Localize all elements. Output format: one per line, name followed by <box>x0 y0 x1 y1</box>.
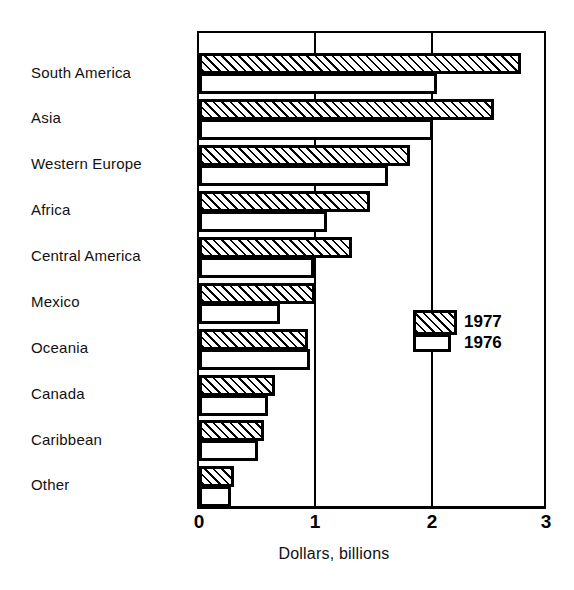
bar-chart: South America Asia Western Europe Africa… <box>0 0 574 590</box>
xtick-0: 0 <box>194 512 205 531</box>
bar-other-1977 <box>199 466 234 487</box>
legend-swatch-1976 <box>413 334 451 352</box>
x-axis-title-text: Dollars, billions <box>279 545 390 562</box>
category-label-asia: Asia <box>31 110 61 125</box>
bar-other-1976 <box>199 486 231 507</box>
category-label-canada: Canada <box>31 386 85 401</box>
legend-label-1977: 1977 <box>464 313 502 330</box>
bar-oceania-1977 <box>199 329 308 350</box>
bar-south-america-1977 <box>199 53 521 74</box>
category-label-other: Other <box>31 477 70 492</box>
x-axis-title: Dollars, billions <box>0 546 574 562</box>
category-label-africa: Africa <box>31 202 71 217</box>
category-label-mexico: Mexico <box>31 294 80 309</box>
legend-swatch-1977 <box>413 310 457 335</box>
bar-mexico-1976 <box>199 303 280 324</box>
bar-africa-1976 <box>199 211 327 232</box>
bar-caribbean-1977 <box>199 420 264 441</box>
bar-africa-1977 <box>199 191 370 212</box>
bar-western-europe-1976 <box>199 165 388 186</box>
bar-western-europe-1977 <box>199 145 410 166</box>
bar-central-america-1976 <box>199 257 314 278</box>
bar-central-america-1977 <box>199 237 352 258</box>
legend-label-1976: 1976 <box>464 334 502 351</box>
category-label-caribbean: Caribbean <box>31 432 102 447</box>
bar-mexico-1977 <box>199 283 315 304</box>
xtick-3: 3 <box>541 512 552 531</box>
category-label-oceania: Oceania <box>31 340 88 355</box>
category-label-south-america: South America <box>31 65 131 80</box>
xtick-1: 1 <box>310 512 321 531</box>
bar-oceania-1976 <box>199 349 310 370</box>
bar-asia-1976 <box>199 119 433 140</box>
bar-canada-1976 <box>199 395 268 416</box>
bar-caribbean-1976 <box>199 440 258 461</box>
bar-asia-1977 <box>199 99 494 120</box>
category-label-western-europe: Western Europe <box>31 156 142 171</box>
bar-south-america-1976 <box>199 73 437 94</box>
bar-canada-1977 <box>199 375 275 396</box>
xtick-2: 2 <box>427 512 438 531</box>
category-label-central-america: Central America <box>31 248 141 263</box>
